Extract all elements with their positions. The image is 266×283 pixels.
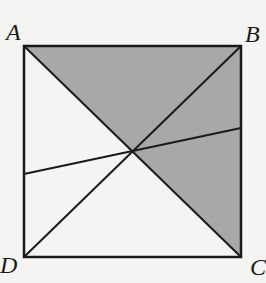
vertex-label-c: C: [250, 255, 266, 279]
vertex-label-b: B: [245, 22, 260, 46]
vertex-label-d: D: [0, 253, 17, 277]
square-figure: [0, 0, 266, 283]
vertex-label-a: A: [6, 20, 21, 44]
geometry-diagram: A B C D: [0, 0, 266, 283]
